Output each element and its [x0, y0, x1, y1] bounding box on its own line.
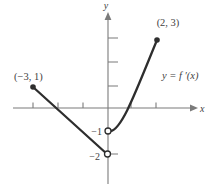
y-axis-letter-label: y	[103, 0, 109, 11]
closed-endpoint-dot-right	[154, 37, 160, 43]
y-tick-label-neg2: −2	[89, 151, 100, 162]
y-axis-arrowhead-icon	[105, 12, 112, 20]
equation-label: y = f ′(x)	[161, 70, 199, 82]
closed-endpoint-dot-left	[30, 84, 36, 90]
x-axis-arrowhead-icon	[190, 105, 198, 112]
x-axis-letter-label: x	[199, 103, 205, 114]
graph-canvas: y x (2, 3) (−3, 1) y = f ′(x) −1 −2	[0, 0, 211, 192]
y-axis-ticks	[108, 38, 118, 154]
right-endpoint-coordinate-label: (2, 3)	[157, 17, 180, 29]
line-segment-series	[33, 87, 107, 154]
derivative-graph-figure: y x (2, 3) (−3, 1) y = f ′(x) −1 −2	[0, 0, 211, 192]
left-endpoint-coordinate-label: (−3, 1)	[14, 71, 43, 83]
open-endpoint-circle-neg2	[105, 151, 111, 157]
y-tick-label-neg1: −1	[91, 126, 102, 137]
open-endpoint-circle-neg1	[105, 128, 111, 134]
